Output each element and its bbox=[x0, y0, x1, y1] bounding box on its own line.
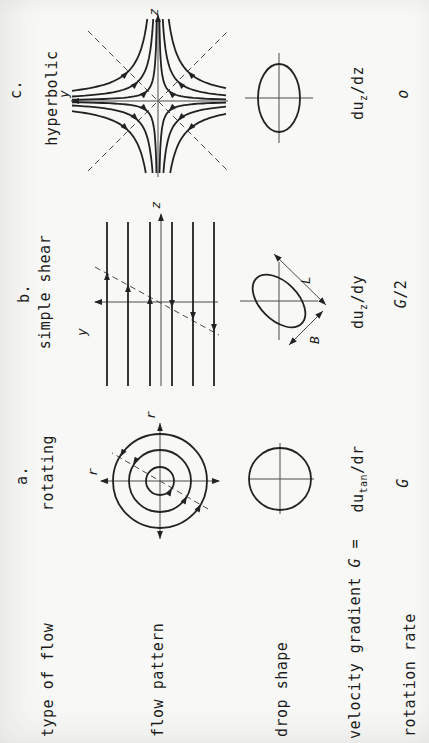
row-label-flow-pattern: flow pattern bbox=[149, 623, 167, 737]
flow-name-simple-shear: simple shear bbox=[36, 217, 54, 367]
rotation-rate-a: G bbox=[394, 408, 412, 558]
gradient-value-b: duz/dy bbox=[349, 227, 367, 377]
drop-shape-hyperbolic bbox=[245, 53, 313, 143]
minor-axis-label-B: B bbox=[306, 336, 324, 344]
drop-shape-shear bbox=[240, 254, 326, 345]
velocity-gradient-text: velocity gradient bbox=[346, 577, 364, 739]
gradient-value-a: dutan/dr bbox=[349, 404, 367, 554]
z-axis-label-shear: z bbox=[147, 201, 165, 209]
velocity-profile-line bbox=[95, 267, 219, 335]
rotating-flow-pattern bbox=[101, 423, 219, 539]
gradient-rest: /dz bbox=[349, 66, 367, 95]
figure-stage: type of flow flow pattern drop shape vel… bbox=[0, 0, 429, 743]
rate-symbol: G bbox=[392, 299, 410, 309]
rate-rest: /2 bbox=[392, 280, 410, 299]
rate-symbol: o bbox=[394, 89, 412, 99]
gradient-symbol: G bbox=[346, 558, 364, 568]
gradient-sub: z bbox=[358, 95, 369, 102]
gradient-value-c: duz/dz bbox=[349, 18, 367, 168]
row-label-drop-shape: drop shape bbox=[273, 642, 291, 737]
row-label-type-of-flow: type of flow bbox=[39, 623, 57, 737]
r-axis-label-top: r bbox=[84, 468, 102, 476]
major-axis-label-L: L bbox=[297, 276, 315, 284]
z-axis-label-hyperbolic: z bbox=[145, 8, 163, 16]
row-label-velocity-gradient: velocity gradient G = bbox=[346, 539, 364, 739]
rotation-rate-b: G/2 bbox=[392, 219, 410, 369]
gradient-rest: /dy bbox=[349, 275, 367, 304]
row-label-rotation-rate: rotation rate bbox=[401, 613, 419, 737]
gradient-sub: z bbox=[358, 304, 369, 311]
gradient-base: du bbox=[349, 310, 367, 329]
rotation-rate-c: o bbox=[394, 19, 412, 169]
column-letter-c: c. bbox=[7, 80, 25, 99]
flow-name-hyperbolic: hyperbolic bbox=[43, 23, 61, 173]
gradient-base: du bbox=[349, 494, 367, 513]
r-axis-label-right: r bbox=[142, 411, 160, 419]
hyperbolic-flow-pattern bbox=[71, 15, 228, 177]
gradient-sub: tan bbox=[358, 474, 369, 494]
scanned-figure-page: type of flow flow pattern drop shape vel… bbox=[0, 0, 429, 743]
simple-shear-flow-pattern bbox=[95, 215, 219, 386]
drop-shape-rotating bbox=[249, 443, 314, 514]
y-axis-label-hyperbolic: y bbox=[55, 90, 73, 98]
column-letter-b: b. bbox=[15, 284, 33, 303]
column-letter-a: a. bbox=[13, 466, 31, 485]
rate-symbol: G bbox=[394, 478, 412, 488]
y-axis-label-shear: y bbox=[73, 328, 91, 336]
flow-name-rotating: rotating bbox=[39, 398, 57, 548]
gradient-rest: /dr bbox=[349, 445, 367, 474]
gradient-base: du bbox=[349, 101, 367, 120]
